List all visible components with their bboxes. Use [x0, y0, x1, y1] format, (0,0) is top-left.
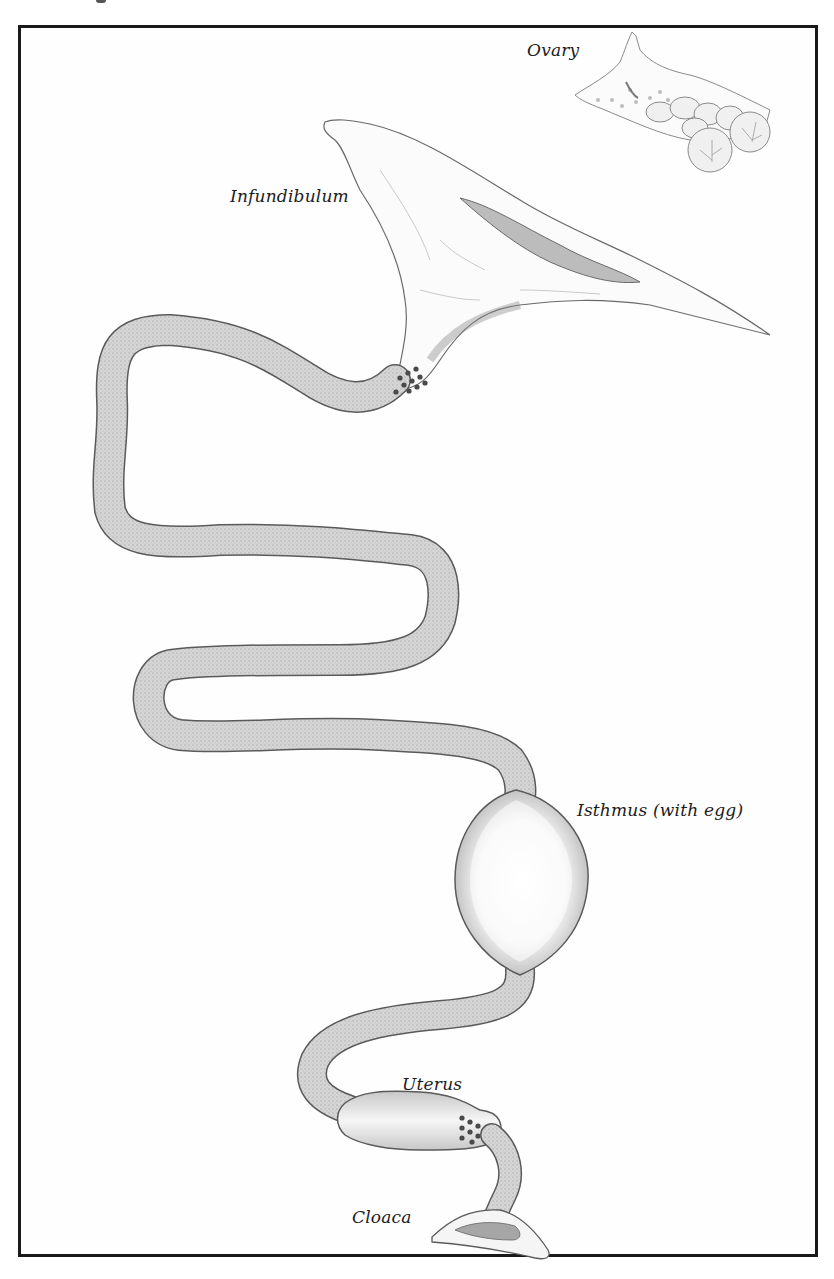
label-cloaca: Cloaca — [352, 1207, 412, 1227]
label-ovary: Ovary — [527, 40, 579, 60]
oviduct-tube — [108, 330, 520, 1110]
label-infundibulum: Infundibulum — [230, 186, 349, 206]
label-isthmus: Isthmus (with egg) — [577, 800, 743, 820]
cloaca-drawing — [432, 1210, 549, 1259]
ovary-drawing — [575, 32, 770, 172]
uterus-drawing — [338, 1091, 511, 1215]
label-uterus: Uterus — [402, 1074, 462, 1094]
isthmus-egg — [455, 790, 588, 975]
